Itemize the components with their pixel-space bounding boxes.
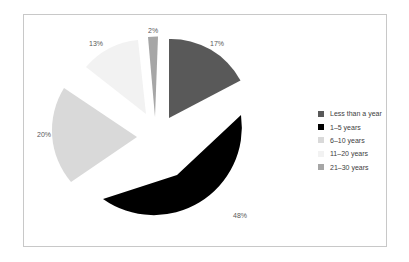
data-label-less-than-a-year: 17% xyxy=(210,40,224,47)
legend-item: 1–5 years xyxy=(318,120,382,133)
legend-swatch-icon xyxy=(318,151,324,157)
data-label-11-20-years: 13% xyxy=(89,40,103,47)
legend-swatch-icon xyxy=(318,111,324,117)
data-label-21-30-years: 2% xyxy=(148,27,158,34)
legend-item: 21–30 years xyxy=(318,161,382,174)
legend-label: 6–10 years xyxy=(330,137,365,144)
legend-label: 11–20 years xyxy=(330,150,368,157)
slice-21-30-years xyxy=(148,36,158,117)
legend-item: 6–10 years xyxy=(318,134,382,147)
legend-swatch-icon xyxy=(318,164,324,170)
legend-swatch-icon xyxy=(318,137,324,143)
legend-label: 1–5 years xyxy=(330,124,361,131)
legend-item: Less than a year xyxy=(318,107,382,120)
legend-item: 11–20 years xyxy=(318,147,382,160)
data-label-1-5-years: 48% xyxy=(233,212,247,219)
legend-label: Less than a year xyxy=(330,110,382,117)
slice-6-10-years xyxy=(52,88,137,182)
legend-label: 21–30 years xyxy=(330,164,369,171)
data-label-6-10-years: 20% xyxy=(37,131,51,138)
legend-swatch-icon xyxy=(318,124,324,130)
slice-less-than-a-year xyxy=(169,39,241,118)
slice-11-20-years xyxy=(86,40,146,114)
chart-legend: Less than a year 1–5 years 6–10 years 11… xyxy=(318,107,382,174)
